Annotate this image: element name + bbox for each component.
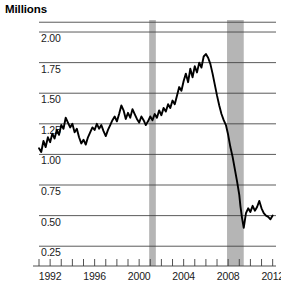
y-axis-tick-label: 0.75 (41, 185, 61, 197)
y-axis-tick-label: 2.00 (41, 32, 61, 44)
x-axis-tick-label: 1996 (83, 270, 106, 282)
y-axis-tick-label: 0.25 (41, 246, 61, 258)
x-axis-tick-labels: 199219962000200420082012 (39, 270, 281, 282)
chart-container: Millions 2.001.751.501.251.000.750.500.2… (0, 0, 281, 290)
x-axis-tick-label: 2012 (261, 270, 281, 282)
x-axis-tick-label: 1992 (39, 270, 62, 282)
x-axis-tick-label: 2008 (217, 270, 240, 282)
chart-plot-area: 2.001.751.501.251.000.750.500.25 1992199… (0, 0, 281, 290)
y-axis-tick-label: 1.00 (41, 154, 61, 166)
x-axis-tick-label: 2000 (128, 270, 151, 282)
y-axis-tick-label: 0.50 (41, 216, 61, 228)
x-axis-tick-label: 2004 (172, 270, 195, 282)
y-axis-tick-label: 1.75 (41, 63, 61, 75)
y-axis-tick-label: 1.50 (41, 93, 61, 105)
recession-2001 (149, 20, 156, 266)
